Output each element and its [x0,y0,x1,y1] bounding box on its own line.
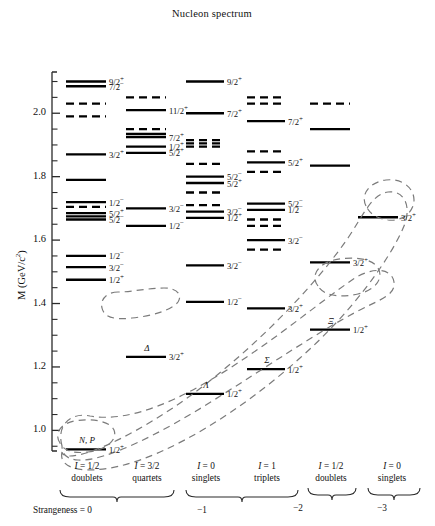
delta-state-loop [102,288,180,319]
y-tick-label: 1.8 [20,170,46,181]
energy-level-label: 11/2+ [169,104,188,116]
energy-level-label: 3/2+ [169,350,184,362]
strangeness-brace-minus1 [186,490,298,502]
energy-level-label: 1/2− [227,295,242,307]
energy-level-label: 3/2+ [401,211,416,223]
energy-level-label: 1/2− [169,219,184,231]
y-tick-label: 1.0 [20,423,46,434]
strangeness-label-minus2: −2 [293,503,303,513]
energy-level-label: 1/2− [288,203,303,215]
energy-level-label: 1/2+ [288,363,303,375]
y-tick-label: 1.6 [20,233,46,244]
energy-level-label: 1/2+ [109,273,124,285]
particle-symbol-label: Ξ [319,316,343,326]
strangeness-brace-minus3 [368,488,420,500]
particle-symbol-label: Σ [255,355,279,365]
energy-level-label: 3/2− [169,202,184,214]
energy-level-label: 3/2− [227,259,242,271]
energy-level-label: 5/2− [109,213,124,225]
energy-level-label: 1/2+ [109,443,124,455]
y-axis-label-close: ) [16,250,27,254]
energy-level-label: 1/2+ [353,323,368,335]
energy-level-label: 7/2+ [288,115,303,127]
column-header-col-omega-singlets: I = 0singlets [352,460,432,484]
column-isospin: I = 0 [352,460,432,472]
column-multiplet: singlets [352,472,432,484]
strangeness-brace-0 [60,490,174,502]
energy-level-label: 5/2+ [227,177,242,189]
y-axis-line [52,72,57,451]
energy-level-label: 5/2+ [288,156,303,168]
particle-symbol-label: N, P [75,435,99,445]
particle-symbol-label: Λ [194,380,218,390]
energy-level-label: 3/2+ [109,148,124,160]
energy-level-label: 1/2+ [227,211,242,223]
spectrum-canvas [0,0,435,526]
energy-level-label: 3/2+ [353,256,368,268]
strangeness-label-minus3: −3 [377,503,387,513]
energy-level-label: 1/2− [109,196,124,208]
strangeness-label-minus1: −1 [197,505,207,515]
xi-state-loop [315,258,380,296]
nucleon-spectrum-figure: Nucleon spectrum M (GeV/c2) 1.01.21.41.6… [0,0,435,526]
energy-level-label: 9/2+ [227,75,242,87]
y-tick-label: 2.0 [20,106,46,117]
energy-level-label: 1/2− [109,249,124,261]
chart-title: Nucleon spectrum [172,8,252,19]
energy-level-label: 3/2− [109,261,124,273]
energy-level-label: 5/2+ [169,146,184,158]
energy-level-label: 7/2+ [227,107,242,119]
y-axis-label-text: M (GeV/c [16,257,27,300]
strangeness-brace-minus2 [308,488,356,500]
energy-level-label: 1/2+ [227,387,242,399]
particle-symbol-label: Δ [135,343,159,353]
energy-level-label: 3/2+ [288,302,303,314]
y-axis-label: M (GeV/c2) [14,250,27,300]
y-tick-label: 1.2 [20,360,46,371]
y-tick-label: 1.4 [20,297,46,308]
y-axis-label-exponent: 2 [14,254,22,258]
energy-level-label: 3/2− [288,234,303,246]
energy-level-label: 7/2− [109,80,124,92]
strangeness-label-0: Strangeness = 0 [33,505,92,515]
